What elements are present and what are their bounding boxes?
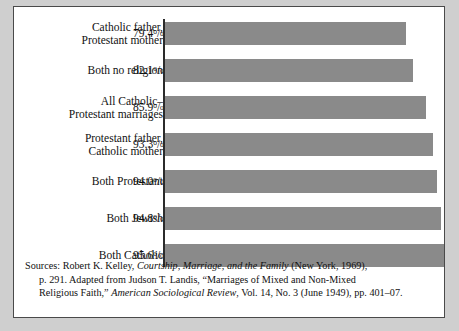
bar (165, 59, 413, 82)
caption-book-title: Courtship, Marriage, and the Family (137, 260, 289, 271)
bar (165, 207, 441, 230)
percent-sign-upper: o (153, 249, 157, 258)
percent-sign-upper: o (153, 101, 157, 110)
bar (165, 133, 433, 156)
chart-row: Both no religion 82.1o/o (14, 52, 446, 89)
caption-line3-suffix: , Vol. 14, No. 3 (June 1949), pp. 401–07… (236, 287, 402, 298)
value-number: 85.9 (133, 101, 153, 113)
chart-row: All Catholic– Protestant marriages 85.9o… (14, 89, 446, 126)
caption-line1-suffix: (New York, 1969), (289, 260, 368, 271)
chart-row: Protestant father, Catholic mother 93.3o… (14, 126, 446, 163)
percent-sign-upper: o (153, 27, 157, 36)
caption-journal-title: American Sociological Review (111, 287, 236, 298)
percent-sign-upper: o (153, 64, 157, 73)
percent-sign-upper: o (153, 212, 157, 221)
caption-line-2: p. 291. Adapted from Judson T. Landis, “… (25, 273, 435, 287)
caption-line1-prefix: Sources: Robert K. Kelley, (25, 260, 137, 271)
bar (165, 170, 437, 193)
chart-row: Both Protestant 94.0o/o (14, 163, 446, 200)
chart-row: Catholic father, Protestant mother 79.4o… (14, 15, 446, 52)
bar (165, 96, 426, 119)
value-number: 94.0 (133, 175, 153, 187)
value-number: 93.3 (133, 138, 153, 150)
bar (165, 22, 406, 45)
caption-line-3: Religious Faith,” American Sociological … (25, 286, 435, 300)
chart-row: Both Jewish 94.8o/o (14, 200, 446, 237)
vertical-axis-line (163, 19, 165, 267)
percent-sign-upper: o (153, 138, 157, 147)
caption-line3-prefix: Religious Faith,” (39, 287, 111, 298)
caption-line-1: Sources: Robert K. Kelley, Courtship, Ma… (25, 259, 435, 273)
value-number: 82.1 (133, 64, 153, 76)
bar-chart: Catholic father, Protestant mother 79.4o… (14, 7, 446, 257)
value-number: 79.4 (133, 27, 153, 39)
value-number: 94.8 (133, 212, 153, 224)
percent-sign-upper: o (153, 175, 157, 184)
figure-frame: Catholic father, Protestant mother 79.4o… (13, 6, 445, 318)
source-caption: Sources: Robert K. Kelley, Courtship, Ma… (14, 259, 446, 300)
